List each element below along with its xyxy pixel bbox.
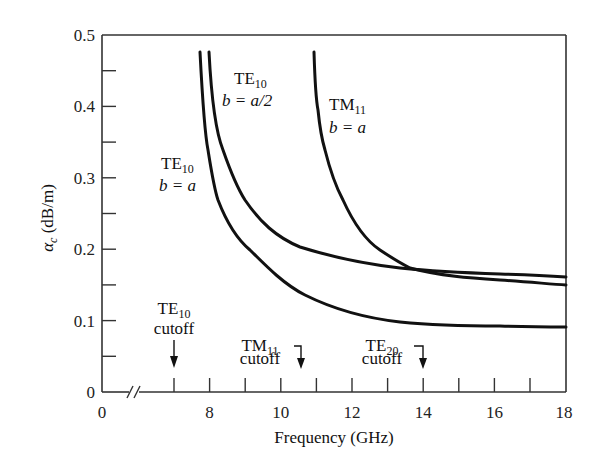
- bent-down-arrow-icon: [414, 346, 427, 369]
- svg-text:TE10: TE10: [234, 69, 267, 91]
- cutoff-te20: TE20 cutoff: [362, 336, 427, 369]
- svg-text:αc (dB/m): αc (dB/m): [38, 184, 60, 252]
- bent-down-arrow-icon: [294, 346, 305, 369]
- label-te10-b-a2: TE10 b = a/2: [222, 69, 273, 110]
- plot-frame: [102, 35, 566, 392]
- x-tick-0: 0: [98, 403, 107, 422]
- label-te10-b-a: TE10 b = a: [159, 154, 196, 195]
- svg-text:TM11: TM11: [329, 95, 366, 117]
- label-tm11-b-a: TM11 b = a: [329, 95, 366, 137]
- y-tick-0.3: 0.3: [74, 169, 95, 188]
- y-axis-title: αc (dB/m): [38, 184, 60, 252]
- svg-text:b = a/2: b = a/2: [222, 91, 273, 110]
- svg-text:cutoff: cutoff: [154, 319, 195, 338]
- svg-text:TE10: TE10: [158, 299, 191, 321]
- svg-text:cutoff: cutoff: [362, 349, 403, 368]
- x-tick-labels: 0 8 10 12 14 16 18: [98, 403, 573, 422]
- x-axis-title: Frequency (GHz): [274, 428, 393, 447]
- x-tick-14: 14: [415, 403, 433, 422]
- down-arrow-icon: [170, 340, 178, 368]
- x-tick-12: 12: [344, 403, 361, 422]
- y-tick-0.2: 0.2: [74, 240, 95, 259]
- y-tick-0: 0: [87, 383, 96, 402]
- cutoff-te10: TE10 cutoff: [154, 299, 195, 368]
- x-tick-18: 18: [556, 403, 573, 422]
- x-tick-8: 8: [205, 403, 214, 422]
- y-tick-0.1: 0.1: [74, 312, 95, 331]
- y-tick-0.4: 0.4: [74, 97, 96, 116]
- svg-text:b = a: b = a: [329, 118, 366, 137]
- y-axis-units: (dB/m): [38, 184, 57, 237]
- y-tick-0.5: 0.5: [74, 26, 95, 45]
- svg-text:b = a: b = a: [159, 176, 196, 195]
- y-ticks: [102, 71, 116, 357]
- cutoff-tm11: TM11 cutoff: [240, 336, 305, 369]
- x-tick-16: 16: [486, 403, 503, 422]
- attenuation-chart: 0 0.1 0.2 0.3 0.4 0.5 0 8 10 12 14 16 18…: [0, 0, 597, 472]
- x-ticks: [174, 378, 530, 392]
- svg-text:TE10: TE10: [161, 154, 194, 176]
- y-tick-labels: 0 0.1 0.2 0.3 0.4 0.5: [74, 26, 96, 402]
- curve-tm11-b-a: [314, 52, 566, 285]
- svg-text:cutoff: cutoff: [240, 349, 281, 368]
- x-tick-10: 10: [272, 403, 289, 422]
